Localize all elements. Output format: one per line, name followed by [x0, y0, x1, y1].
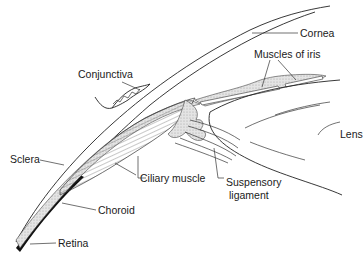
- label-suspensory: Suspensory: [226, 176, 282, 188]
- label-muscles-of-iris: Muscles of iris: [254, 48, 321, 60]
- label-ligament: ligament: [229, 189, 269, 201]
- label-sclera: Sclera: [10, 153, 40, 165]
- label-retina: Retina: [58, 237, 89, 249]
- eye-anatomy-diagram: Cornea Muscles of iris Conjunctiva Lens …: [0, 0, 364, 263]
- label-choroid: Choroid: [98, 204, 135, 216]
- label-cornea: Cornea: [300, 27, 335, 39]
- label-lens: Lens: [340, 128, 363, 140]
- conjunctiva-shape: [95, 84, 150, 108]
- label-ciliary-muscle: Ciliary muscle: [140, 172, 206, 184]
- label-conjunctiva: Conjunctiva: [78, 68, 133, 80]
- leader-lines: [30, 33, 298, 244]
